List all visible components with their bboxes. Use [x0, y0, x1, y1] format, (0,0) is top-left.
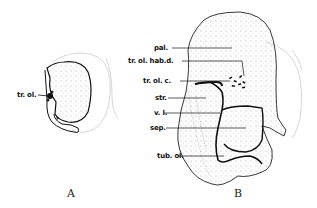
label-a-tr-ol: tr. ol. [17, 91, 36, 99]
label-b-tub-ol: tub. ol. [157, 152, 184, 160]
label-b-tr-ol-hab-d: tr. ol. hab.d. [128, 57, 173, 65]
label-b-sep: sep. [150, 124, 166, 132]
diagram-canvas [0, 0, 317, 208]
label-b-pal: pal. [154, 44, 168, 52]
label-b-tr-ol-c: tr. ol. c. [143, 77, 171, 85]
panel-label-b: B [234, 187, 242, 200]
section-a [38, 53, 118, 133]
label-b-str: str. [155, 94, 167, 102]
section-b [164, 12, 302, 185]
label-b-v-l: v. l. [154, 109, 167, 117]
panel-label-a: A [67, 187, 75, 200]
